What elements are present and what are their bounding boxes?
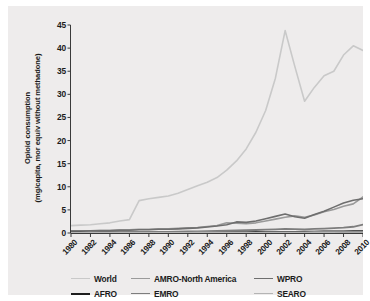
y-tick-label: 10 (40, 182, 66, 192)
legend-label: WPRO (277, 274, 302, 284)
legend-label: World (94, 274, 117, 284)
legend-label: AMRO-North America (154, 274, 236, 284)
y-tick-label: 25 (40, 112, 66, 122)
y-tick-label: 20 (40, 136, 66, 146)
legend-color-swatch (71, 293, 90, 295)
legend-row: WorldAMRO-North AmericaWPRO (71, 271, 370, 286)
x-tick-label: 2004 (291, 238, 313, 260)
x-tick-label: 2010 (349, 238, 370, 260)
x-tick-label: 1982 (77, 238, 99, 260)
x-tick-label: 2006 (311, 238, 333, 260)
series-line (71, 199, 363, 231)
legend-row: AFROEMROSEARO (71, 286, 370, 301)
y-tick-label: 45 (40, 20, 66, 30)
legend-color-swatch (254, 278, 273, 279)
x-tick-label: 1990 (155, 238, 177, 260)
x-tick-label: 1980 (57, 238, 79, 260)
y-tick-label: 30 (40, 89, 66, 99)
x-tick-label: 2000 (252, 238, 274, 260)
series-line (71, 232, 363, 233)
x-tick-label: 1988 (135, 238, 157, 260)
x-tick-label: 1998 (233, 238, 255, 260)
legend-color-swatch (131, 278, 150, 279)
chart-canvas: Opioid consumption (mg/capita, mor equiv… (8, 6, 363, 295)
legend-item[interactable]: SEARO (254, 289, 306, 299)
y-tick-label: 35 (40, 66, 66, 76)
legend-item[interactable]: World (71, 274, 131, 284)
x-tick-label: 1992 (174, 238, 196, 260)
x-tick-label: 2002 (272, 238, 294, 260)
legend-item[interactable]: EMRO (131, 289, 254, 299)
series-lines (71, 25, 363, 233)
legend-color-swatch (71, 278, 90, 279)
x-tick-label: 1984 (96, 238, 118, 260)
legend-label: EMRO (154, 289, 178, 299)
legend-item[interactable]: WPRO (254, 274, 302, 284)
x-tick-label: 2008 (330, 238, 352, 260)
chart-legend: WorldAMRO-North AmericaWPRO AFROEMROSEAR… (71, 271, 370, 301)
legend-color-swatch (131, 293, 150, 294)
y-tick-label: 40 (40, 43, 66, 53)
legend-item[interactable]: AMRO-North America (131, 274, 254, 284)
x-tick-label: 1996 (213, 238, 235, 260)
y-tick-label: 15 (40, 159, 66, 169)
y-tick-label: 0 (40, 228, 66, 238)
y-tick-label: 5 (40, 205, 66, 215)
series-line (71, 31, 363, 226)
legend-color-swatch (254, 293, 273, 294)
x-tick-label: 1986 (116, 238, 138, 260)
legend-label: SEARO (277, 289, 306, 299)
legend-item[interactable]: AFRO (71, 289, 131, 299)
x-tick-label: 1994 (194, 238, 216, 260)
plot-area (71, 25, 363, 233)
figure: Opioid consumption (mg/capita, mor equiv… (0, 0, 370, 301)
legend-label: AFRO (94, 289, 117, 299)
